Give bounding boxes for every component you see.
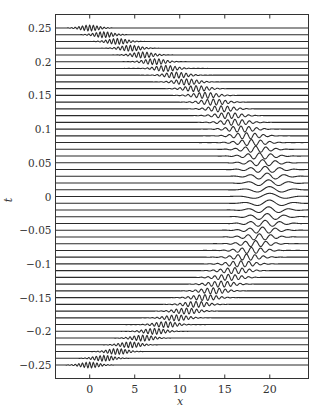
- trace-line: [56, 241, 309, 247]
- y-tick-label: 0.1: [35, 123, 52, 135]
- x-tick-label: 20: [263, 383, 277, 396]
- trace-line: [56, 234, 309, 240]
- trace-line: [56, 335, 309, 341]
- trace-line: [56, 207, 309, 213]
- trace-line: [56, 72, 309, 78]
- y-tick-label: 0.05: [28, 157, 51, 169]
- wave-traces: [56, 25, 309, 368]
- trace-line: [56, 99, 309, 105]
- trace-line: [56, 328, 309, 334]
- trace-line: [56, 301, 309, 307]
- y-tick-label: −0.25: [19, 359, 51, 371]
- trace-line: [56, 86, 309, 92]
- trace-line: [56, 153, 309, 159]
- y-axis-ticks: 0.250.20.150.10.050−0.05−0.1−0.15−0.2−0.…: [19, 22, 51, 371]
- trace-line: [56, 268, 309, 274]
- trace-line: [56, 173, 309, 179]
- trace-line: [56, 193, 309, 198]
- trace-line: [56, 25, 309, 31]
- y-tick-label: 0.15: [28, 89, 51, 101]
- trace-line: [56, 32, 309, 38]
- trace-line: [56, 247, 309, 253]
- trace-line: [56, 355, 309, 361]
- trace-line: [56, 126, 309, 132]
- trace-line: [56, 119, 309, 125]
- y-axis-label: t: [2, 197, 15, 202]
- trace-line: [56, 39, 309, 45]
- trace-line: [56, 308, 309, 314]
- trace-line: [56, 220, 309, 226]
- trace-line: [56, 146, 309, 152]
- trace-line: [56, 362, 309, 368]
- x-tick-label: 0: [86, 383, 93, 396]
- y-tick-label: −0.05: [19, 224, 51, 236]
- y-tick-label: 0.2: [35, 56, 52, 68]
- trace-line: [56, 166, 309, 172]
- trace-line: [56, 288, 309, 294]
- y-tick-label: 0.25: [28, 22, 51, 34]
- x-tick-label: 10: [173, 383, 187, 396]
- y-tick-label: −0.1: [26, 258, 52, 270]
- trace-line: [56, 281, 309, 287]
- trace-line: [56, 322, 309, 328]
- trace-line: [56, 52, 309, 58]
- y-tick-label: 0: [45, 191, 52, 203]
- trace-line: [56, 160, 309, 166]
- trace-line: [56, 187, 309, 192]
- trace-line: [56, 315, 309, 321]
- trace-line: [56, 349, 309, 355]
- x-tick-label: 5: [131, 383, 138, 396]
- waterfall-chart: 05101520 0.250.20.150.10.050−0.05−0.1−0.…: [0, 0, 312, 410]
- trace-line: [56, 342, 309, 348]
- trace-line: [56, 227, 309, 233]
- trace-line: [56, 261, 309, 267]
- trace-line: [56, 254, 309, 260]
- x-tick-label: 15: [218, 383, 232, 396]
- trace-line: [56, 214, 309, 220]
- trace-line: [56, 45, 309, 51]
- trace-line: [56, 106, 309, 112]
- trace-line: [56, 274, 309, 280]
- y-tick-label: −0.2: [26, 325, 52, 337]
- trace-line: [56, 140, 309, 146]
- trace-line: [56, 59, 309, 65]
- trace-line: [56, 133, 309, 139]
- trace-line: [56, 295, 309, 301]
- x-axis-label: x: [177, 395, 184, 408]
- trace-line: [56, 92, 309, 98]
- trace-line: [56, 200, 309, 205]
- trace-line: [56, 66, 309, 72]
- trace-line: [56, 113, 309, 119]
- trace-line: [56, 79, 309, 85]
- trace-line: [56, 180, 309, 186]
- y-tick-label: −0.15: [19, 292, 51, 304]
